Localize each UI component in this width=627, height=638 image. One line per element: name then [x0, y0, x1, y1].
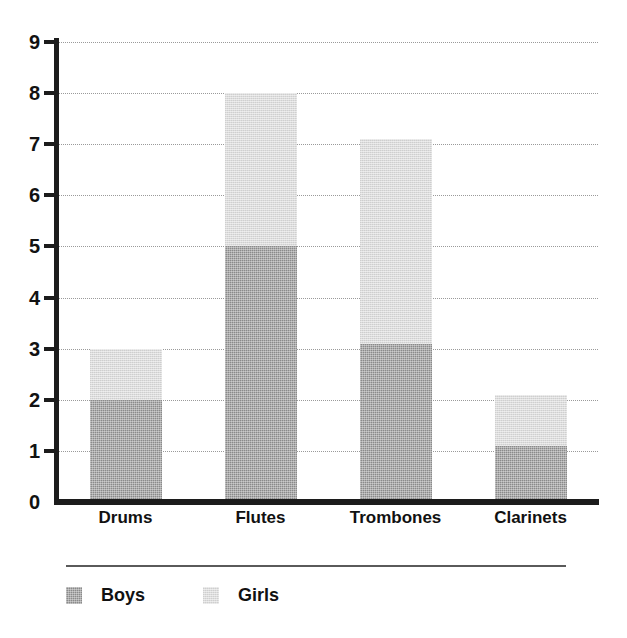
y-axis-tick-label: 1: [6, 441, 40, 461]
y-axis-tick-label: 7: [6, 134, 40, 154]
legend-label: Boys: [101, 586, 145, 604]
y-axis-tick-label: 0: [6, 492, 40, 512]
bar-group[interactable]: [90, 42, 162, 502]
legend-item-boys[interactable]: Boys: [66, 586, 145, 604]
bar-group[interactable]: [360, 42, 432, 502]
bar-group[interactable]: [225, 42, 297, 502]
bar-segment-boys[interactable]: [360, 344, 432, 502]
legend-swatch-boys-icon: [66, 587, 82, 604]
bar-segment-boys[interactable]: [90, 400, 162, 502]
legend-divider: [66, 565, 566, 567]
bar-segment-girls[interactable]: [225, 93, 297, 246]
y-axis-tick: [44, 91, 56, 95]
bar-segment-boys[interactable]: [495, 446, 567, 502]
bar-chart-figure: 0123456789 DrumsFlutesTrombonesClarinets…: [0, 0, 627, 638]
y-axis-tick-label: 9: [6, 32, 40, 52]
bar-segment-boys[interactable]: [225, 246, 297, 502]
y-axis-tick: [44, 398, 56, 402]
x-axis-label-trombones: Trombones: [328, 508, 463, 528]
y-axis-tick-label: 2: [6, 390, 40, 410]
legend-label: Girls: [238, 586, 279, 604]
y-axis-tick: [44, 142, 56, 146]
y-axis-tick: [44, 193, 56, 197]
y-axis-tick: [44, 449, 56, 453]
y-axis-tick-label: 6: [6, 185, 40, 205]
y-axis-tick-label: 4: [6, 288, 40, 308]
chart-legend: BoysGirls: [66, 582, 337, 608]
y-axis-tick-labels: 0123456789: [0, 0, 40, 638]
y-axis-tick: [44, 296, 56, 300]
legend-swatch-girls-icon: [203, 587, 219, 604]
plot-area: [58, 40, 598, 502]
x-axis-label-drums: Drums: [58, 508, 193, 528]
x-axis-line: [54, 499, 599, 505]
bar-segment-girls[interactable]: [495, 395, 567, 446]
bar-group[interactable]: [495, 42, 567, 502]
x-axis-category-labels: DrumsFlutesTrombonesClarinets: [58, 508, 598, 540]
y-axis-tick-label: 5: [6, 236, 40, 256]
y-axis-tick-label: 8: [6, 83, 40, 103]
bar-segment-girls[interactable]: [360, 139, 432, 343]
bar-segment-girls[interactable]: [90, 349, 162, 400]
legend-item-girls[interactable]: Girls: [203, 586, 279, 604]
x-axis-label-clarinets: Clarinets: [463, 508, 598, 528]
y-axis-tick: [44, 244, 56, 248]
x-axis-label-flutes: Flutes: [193, 508, 328, 528]
y-axis-tick: [44, 347, 56, 351]
y-axis-tick: [44, 40, 56, 44]
y-axis-tick-label: 3: [6, 339, 40, 359]
